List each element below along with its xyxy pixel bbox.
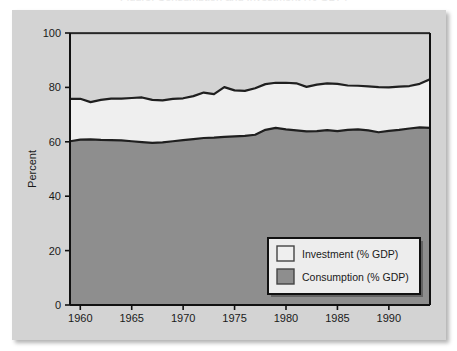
y-tick-label: 100 [43, 27, 61, 39]
legend-swatch [277, 246, 294, 261]
x-tick-label: 1960 [68, 312, 92, 324]
legend-swatch [277, 269, 294, 284]
legend-label: Investment (% GDP) [302, 248, 398, 260]
chart-svg: 0204060801001960196519701975198019851990… [0, 0, 457, 351]
x-tick-label: 1990 [377, 312, 401, 324]
x-tick-label: 1975 [222, 312, 246, 324]
y-tick-label: 20 [49, 245, 61, 257]
chart-figure: Figure: Consumption and Investment (% GD… [0, 0, 457, 351]
x-tick-label: 1985 [325, 312, 349, 324]
legend-label: Consumption (% GDP) [302, 271, 409, 283]
y-tick-label: 0 [55, 299, 61, 311]
x-tick-label: 1980 [274, 312, 298, 324]
y-tick-label: 80 [49, 81, 61, 93]
legend-group[interactable]: Investment (% GDP)Consumption (% GDP) [268, 238, 423, 297]
y-tick-label: 40 [49, 190, 61, 202]
x-tick-label: 1965 [119, 312, 143, 324]
x-tick-label: 1970 [171, 312, 195, 324]
y-tick-label: 60 [49, 136, 61, 148]
y-axis-title: Percent [26, 150, 38, 188]
y-axis-label-group: Percent [26, 150, 38, 188]
